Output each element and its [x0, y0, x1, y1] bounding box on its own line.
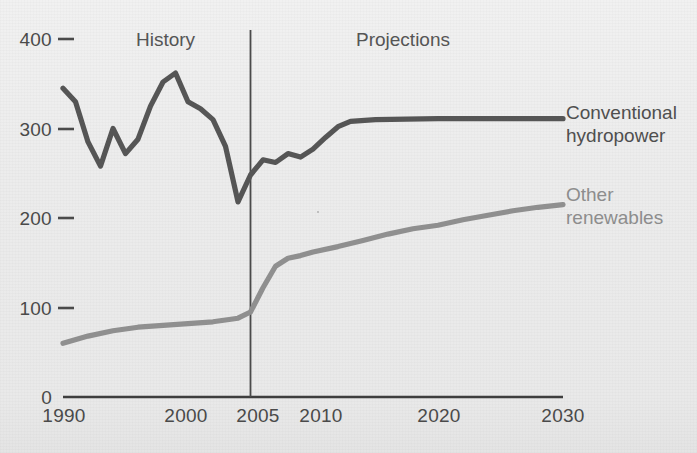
series-label-line-1: Conventional — [566, 101, 677, 124]
y-tick-label-300: 300 — [0, 119, 52, 141]
series-line-conventional-hydropower — [63, 73, 563, 202]
x-tick-label-2030: 2030 — [525, 405, 601, 427]
series-label-line-2: renewables — [566, 206, 663, 229]
series-label-line-2: hydropower — [566, 124, 677, 147]
annotation-history: History — [136, 29, 195, 51]
y-tick-label-200: 200 — [0, 208, 52, 230]
series-label-conventional-hydropower: Conventional hydropower — [566, 101, 677, 147]
scan-speck — [317, 211, 319, 213]
series-label-other-renewables: Other renewables — [566, 183, 663, 229]
y-tick-label-400: 400 — [0, 29, 52, 51]
y-tick-label-100: 100 — [0, 298, 52, 320]
y-tick-marks — [58, 39, 74, 308]
annotation-projections: Projections — [356, 29, 450, 51]
x-tick-label-2000: 2000 — [148, 405, 224, 427]
x-tick-label-1990: 1990 — [26, 405, 102, 427]
series-line-other-renewables — [63, 205, 563, 344]
x-tick-label-2020: 2020 — [401, 405, 477, 427]
x-tick-label-2010: 2010 — [283, 405, 359, 427]
line-chart-figure: 400 300 200 100 0 1990 2000 2005 2010 20… — [0, 0, 697, 453]
series-label-line-1: Other — [566, 183, 663, 206]
